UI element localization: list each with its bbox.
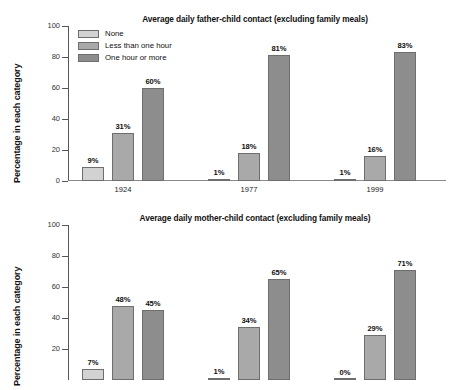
- bar: [112, 306, 134, 380]
- bar: [268, 55, 290, 181]
- bar-value-label: 31%: [115, 122, 130, 131]
- bar: [364, 156, 386, 181]
- y-axis-tick-label: 40: [52, 313, 60, 322]
- bar: [394, 270, 416, 380]
- y-axis-tick-mark: [62, 287, 68, 288]
- bar-value-label: 1%: [214, 168, 225, 177]
- bar-value-label: 29%: [367, 324, 382, 333]
- y-axis-tick-label: 0: [56, 176, 60, 185]
- father-y-axis-title: Percentage in each category: [12, 64, 22, 183]
- y-axis-tick-label: 20: [52, 344, 60, 353]
- bar-value-label: 71%: [397, 259, 412, 268]
- bar: [394, 52, 416, 181]
- y-axis-tick-label: 100: [47, 220, 60, 229]
- mother-y-axis-line: [68, 225, 69, 380]
- y-axis-tick-label: 100: [47, 21, 60, 30]
- legend-item-one-hour-or-more: One hour or more: [78, 52, 172, 64]
- mother-plot-area: 204060801007%48%45%1%34%65%0%29%71%: [68, 225, 446, 380]
- bar: [238, 153, 260, 181]
- y-axis-tick-label: 20: [52, 145, 60, 154]
- bar-value-label: 7%: [88, 358, 99, 367]
- bar-value-label: 34%: [241, 316, 256, 325]
- y-axis-tick-label: 80: [52, 251, 60, 260]
- bar: [82, 369, 104, 380]
- y-axis-tick-label: 60: [52, 83, 60, 92]
- legend-swatch-icon-less-than-one-hour: [78, 42, 99, 50]
- y-axis-tick-mark: [62, 26, 68, 27]
- y-axis-tick-label: 40: [52, 114, 60, 123]
- mother-child-chart-panel: Average daily mother-child contact (excl…: [0, 200, 453, 390]
- bar-value-label: 16%: [367, 145, 382, 154]
- y-axis-tick-mark: [62, 349, 68, 350]
- bar: [112, 133, 134, 181]
- chart-legend: None Less than one hour One hour or more: [78, 28, 172, 64]
- bar: [238, 327, 260, 380]
- bar-value-label: 1%: [214, 367, 225, 376]
- bar-value-label: 1%: [340, 168, 351, 177]
- bar-value-label: 48%: [115, 295, 130, 304]
- bar-value-label: 65%: [271, 268, 286, 277]
- legend-swatch-icon-one-hour-or-more: [78, 54, 99, 62]
- bar: [142, 310, 164, 380]
- x-axis-group-label: 1999: [367, 185, 384, 194]
- y-axis-tick-label: 60: [52, 282, 60, 291]
- bar-value-label: 18%: [241, 142, 256, 151]
- bar: [268, 279, 290, 380]
- y-axis-tick-mark: [62, 256, 68, 257]
- bar-value-label: 9%: [88, 156, 99, 165]
- bar: [364, 335, 386, 380]
- bar: [208, 179, 230, 181]
- bar: [334, 378, 356, 380]
- x-axis-group-label: 1924: [115, 185, 132, 194]
- legend-item-none: None: [78, 28, 172, 40]
- legend-item-less-than-one-hour: Less than one hour: [78, 40, 172, 52]
- bar: [208, 378, 230, 380]
- bar-value-label: 60%: [145, 77, 160, 86]
- bar: [334, 179, 356, 181]
- y-axis-tick-mark: [62, 57, 68, 58]
- father-chart-title: Average daily father-child contact (excl…: [60, 14, 450, 24]
- y-axis-tick-mark: [62, 88, 68, 89]
- father-child-chart-panel: Average daily father-child contact (excl…: [0, 0, 453, 200]
- mother-chart-title: Average daily mother-child contact (excl…: [60, 213, 450, 223]
- y-axis-tick-mark: [62, 119, 68, 120]
- y-axis-tick-mark: [62, 150, 68, 151]
- legend-label-one-hour-or-more: One hour or more: [105, 53, 167, 62]
- bar-value-label: 81%: [271, 44, 286, 53]
- y-axis-tick-mark: [62, 181, 68, 182]
- bar-value-label: 0%: [340, 368, 351, 377]
- bar-value-label: 45%: [145, 299, 160, 308]
- mother-y-axis-title: Percentage in each category: [12, 267, 22, 386]
- bar: [82, 167, 104, 181]
- legend-label-less-than-one-hour: Less than one hour: [105, 41, 172, 50]
- y-axis-tick-mark: [62, 318, 68, 319]
- legend-swatch-icon-none: [78, 30, 99, 38]
- y-axis-tick-label: 80: [52, 52, 60, 61]
- bar-value-label: 83%: [397, 41, 412, 50]
- bar: [142, 88, 164, 181]
- y-axis-tick-mark: [62, 225, 68, 226]
- legend-label-none: None: [105, 29, 124, 38]
- x-axis-group-label: 1977: [241, 185, 258, 194]
- father-y-axis-line: [68, 26, 69, 181]
